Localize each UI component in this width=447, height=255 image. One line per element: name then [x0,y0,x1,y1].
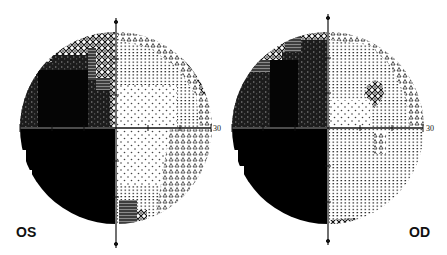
os-axis-30-label: 30 [213,124,221,133]
od-inferior-patch [330,218,362,238]
os-eye-label: OS [16,224,36,240]
visual-field-plots [0,0,447,255]
visual-field-figure: 30 30 OS OD [0,0,447,255]
od-eye-label: OD [409,224,430,240]
od-inferior-temporal-dense [232,129,327,250]
os-inferior-patch [119,200,137,234]
od-axis-30-label: 30 [426,124,434,133]
